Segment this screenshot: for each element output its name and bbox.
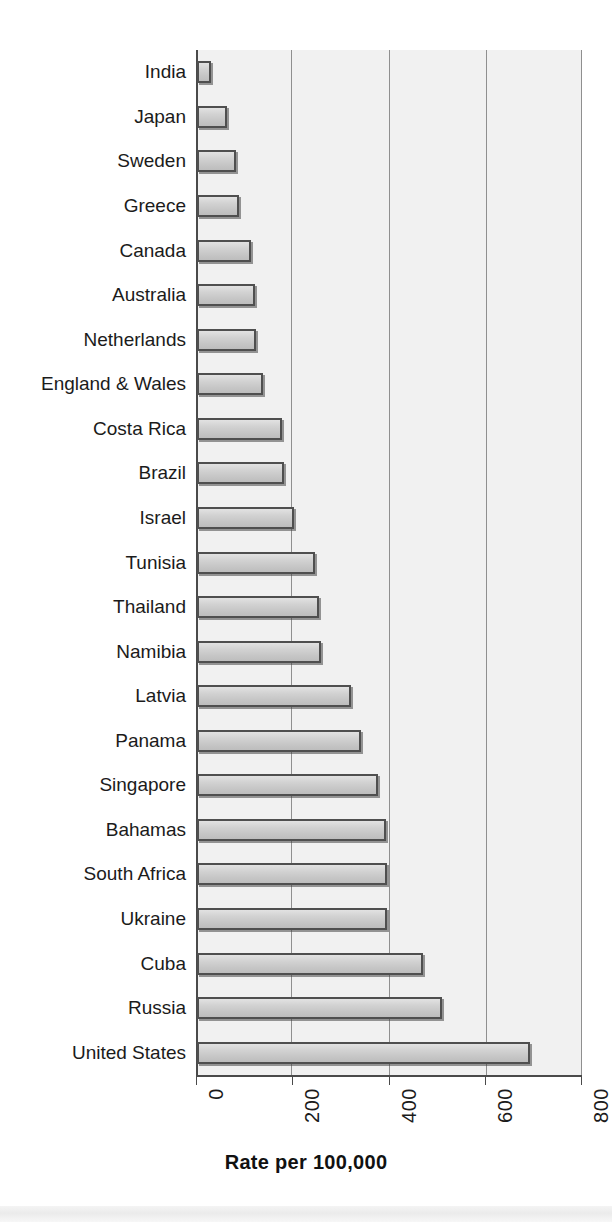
category-label: Russia [11,997,197,1019]
category-label: Latvia [11,685,197,707]
bar-chart: IndiaJapanSwedenGreeceCanadaAustraliaNet… [0,0,612,1226]
category-label: Singapore [11,774,197,796]
bar [197,997,442,1019]
category-label: India [11,61,197,83]
bar [197,953,423,975]
bar [197,641,321,663]
bar [197,819,386,841]
bar [197,462,284,484]
x-axis-title: Rate per 100,000 [0,1151,612,1174]
category-label: Canada [11,240,197,262]
category-label: Ukraine [11,908,197,930]
bar [197,596,319,618]
category-label: Panama [11,730,197,752]
category-label: Costa Rica [11,418,197,440]
bar [197,418,282,440]
tick-label: 0 [205,1088,228,1100]
bar [197,774,378,796]
category-label: United States [11,1042,197,1064]
category-label: Sweden [11,150,197,172]
bar [197,61,211,83]
category-label: Brazil [11,462,197,484]
category-label: Cuba [11,953,197,975]
category-label: South Africa [11,863,197,885]
category-label: Israel [11,507,197,529]
tick-label: 600 [494,1088,517,1123]
bar [197,284,255,306]
bar [197,373,263,395]
bar [197,685,351,707]
tick-mark [196,1077,197,1085]
category-label: Japan [11,106,197,128]
bar [197,863,387,885]
category-label: Tunisia [11,552,197,574]
bar [197,240,251,262]
category-label: Greece [11,195,197,217]
tick-label: 200 [301,1088,324,1123]
category-label: Australia [11,284,197,306]
bar [197,507,294,529]
bar [197,1042,530,1064]
bar [197,106,227,128]
category-label: Thailand [11,596,197,618]
category-label: Netherlands [11,329,197,351]
bar [197,908,387,930]
bar [197,195,239,217]
tick-mark [389,1077,390,1085]
tick-mark [292,1077,293,1085]
category-label: England & Wales [11,373,197,395]
tick-mark [581,1077,582,1085]
tick-label: 400 [398,1088,421,1123]
category-labels: IndiaJapanSwedenGreeceCanadaAustraliaNet… [0,50,197,1075]
tick-mark [485,1077,486,1085]
bar [197,730,361,752]
category-label: Bahamas [11,819,197,841]
bar [197,552,315,574]
tick-label: 800 [590,1088,612,1123]
footer-strip [0,1206,612,1222]
bar [197,329,256,351]
category-label: Namibia [11,641,197,663]
bars-layer [197,50,582,1075]
bar [197,150,236,172]
